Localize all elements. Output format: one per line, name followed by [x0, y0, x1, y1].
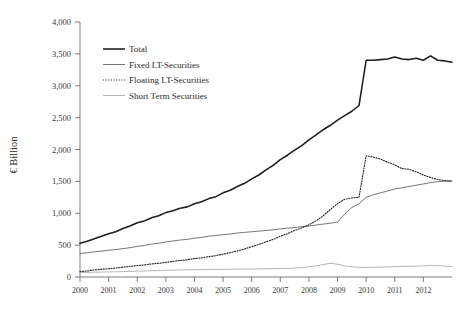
legend-label-fixed: Fixed LT-Securities — [129, 60, 200, 70]
x-tick-label: 2009 — [330, 286, 346, 295]
x-tick-label: 2004 — [186, 286, 202, 295]
x-tick-label: 2001 — [101, 286, 117, 295]
y-tick-label: 500 — [58, 240, 71, 250]
legend-label-floating: Floating LT-Securities — [129, 75, 210, 85]
y-tick-label: 3,500 — [52, 49, 71, 59]
y-tick-label: 2,000 — [52, 145, 71, 155]
x-tick-label: 2002 — [129, 286, 145, 295]
legend-item-fixed: Fixed LT-Securities — [103, 60, 200, 70]
series-line-short-term-securities — [80, 263, 452, 272]
legend-label-short: Short Term Securities — [129, 91, 208, 101]
x-tick-label: 2003 — [158, 286, 174, 295]
chart-legend: TotalFixed LT-SecuritiesFloating LT-Secu… — [103, 44, 210, 100]
x-tick-label: 2007 — [272, 286, 288, 295]
x-tick-label: 2000 — [72, 286, 88, 295]
series-layer — [80, 56, 452, 273]
y-tick-label: 0 — [67, 272, 71, 282]
series-line-floating-lt-securities — [80, 156, 452, 272]
y-tick-label: 2,500 — [52, 113, 71, 123]
legend-item-total: Total — [103, 44, 148, 54]
legend-item-short: Short Term Securities — [103, 91, 208, 101]
x-tick-label: 2008 — [301, 286, 317, 295]
x-axis-ticks: 2000200120022003200420052006200720082009… — [72, 277, 431, 295]
y-tick-label: 3,000 — [52, 81, 71, 91]
x-tick-label: 2010 — [358, 286, 374, 295]
y-axis-ticks: 05001,0001,5002,0002,5003,0003,5004,000 — [52, 17, 80, 282]
y-axis-title: € Billion — [8, 136, 19, 174]
line-chart: € Billion 05001,0001,5002,0002,5003,0003… — [0, 0, 460, 311]
legend-item-floating: Floating LT-Securities — [103, 75, 210, 85]
y-tick-label: 1,000 — [52, 208, 71, 218]
series-line-fixed-lt-securities — [80, 181, 452, 254]
x-tick-label: 2006 — [244, 286, 260, 295]
y-axis-title-text: € Billion — [8, 136, 19, 174]
chart-figure: € Billion 05001,0001,5002,0002,5003,0003… — [0, 0, 460, 311]
x-tick-label: 2011 — [387, 286, 403, 295]
x-tick-label: 2012 — [415, 286, 431, 295]
y-tick-label: 4,000 — [52, 17, 71, 27]
y-tick-label: 1,500 — [52, 176, 71, 186]
x-tick-label: 2005 — [215, 286, 231, 295]
legend-label-total: Total — [129, 44, 148, 54]
